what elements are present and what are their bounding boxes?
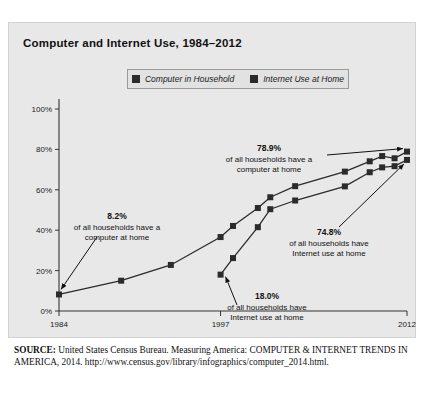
y-tick-label: 40% [36,226,52,235]
annotation-value: 74.8% [317,227,342,237]
annotation-line: Internet use at home [292,249,366,258]
data-point-marker [342,183,348,189]
annotation-line: of all households have a [74,223,161,232]
data-point-marker [218,234,224,240]
data-point-marker [255,205,261,211]
data-point-marker [267,194,273,200]
data-point-marker [392,163,398,169]
data-point-marker [404,157,410,163]
annotation-line: of all households have a [226,155,313,164]
y-tick-label: 100% [32,105,52,114]
y-tick-label: 0% [40,307,52,316]
y-tick-label: 20% [36,267,52,276]
data-point-marker [392,155,398,161]
figure-panel: Computer and Internet Use, 1984–2012 Com… [8,22,416,338]
data-point-marker [267,206,273,212]
x-tick-label: 1984 [50,320,68,329]
data-point-marker [118,278,124,284]
source-text: United States Census Bureau. Measuring A… [14,345,408,367]
annotation-value: 18.0% [255,291,280,301]
data-point-marker [292,183,298,189]
y-tick-label: 80% [36,145,52,154]
data-point-marker [379,153,385,159]
data-point-marker [230,255,236,261]
annotation-value: 78.9% [257,143,282,153]
annotation-leader [327,149,403,155]
y-tick-label: 60% [36,186,52,195]
data-point-marker [404,149,410,155]
plot-area: 0%20%40%60%80%100%1984199720128.2%of all… [9,23,417,339]
x-tick-label: 2012 [398,320,416,329]
annotation-line: of all households have [289,239,369,248]
data-point-marker [218,272,224,278]
source-prefix: SOURCE: [14,345,56,355]
source-note: SOURCE: United States Census Bureau. Mea… [14,344,414,368]
data-point-marker [367,169,373,175]
x-tick-label: 1997 [212,320,230,329]
annotation-line: computer at home [237,165,302,174]
line-chart-svg: 0%20%40%60%80%100%1984199720128.2%of all… [9,23,417,339]
data-point-marker [292,198,298,204]
data-point-marker [342,169,348,175]
data-point-marker [367,158,373,164]
data-point-marker [379,164,385,170]
annotation-line: Internet use at home [230,313,304,322]
annotation-line: of all households have [227,303,307,312]
data-point-marker [56,291,62,297]
annotation-value: 8.2% [107,211,127,221]
data-point-marker [230,223,236,229]
data-point-marker [168,262,174,268]
annotation-leader [61,237,97,289]
annotation-leader [226,277,237,305]
data-point-marker [255,224,261,230]
